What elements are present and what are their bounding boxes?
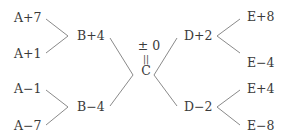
connector-d2-e8 (217, 19, 240, 36)
connector-a7-b4 (46, 19, 68, 36)
connector-am1-bm4 (46, 90, 68, 107)
connector-b4-c (110, 38, 133, 75)
center-plus-minus-zero: ± 0 (138, 39, 160, 53)
leaf-a-plus-7: A+7 (14, 11, 41, 25)
connector-dm2-em8 (217, 107, 240, 125)
node-d-plus-2: D+2 (184, 29, 212, 43)
node-d-minus-2: D−2 (184, 100, 212, 114)
connector-c-dm2 (154, 75, 177, 106)
leaf-e-minus-8: E−8 (247, 119, 275, 133)
leaf-e-plus-8: E+8 (247, 10, 275, 24)
connector-bm4-c (110, 75, 133, 106)
connector-dm2-e4 (217, 90, 240, 107)
connector-d2-em4 (217, 36, 240, 53)
node-b-minus-4: B−4 (77, 100, 105, 114)
node-b-plus-4: B+4 (77, 29, 105, 43)
tree-diagram: A+7 A+1 A−1 A−7 B+4 B−4 ± 0 || C D+2 D−2… (0, 0, 281, 138)
leaf-e-minus-4: E−4 (247, 56, 275, 70)
leaf-a-minus-1: A−1 (14, 82, 41, 96)
leaf-a-plus-1: A+1 (14, 47, 41, 61)
connector-am7-bm4 (46, 107, 68, 125)
center-node-c: C (141, 64, 151, 78)
leaf-a-minus-7: A−7 (14, 119, 41, 133)
leaf-e-plus-4: E+4 (247, 82, 275, 96)
connector-a1-b4 (46, 36, 68, 53)
